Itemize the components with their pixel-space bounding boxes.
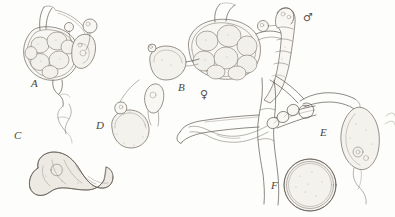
edge-fragment-right bbox=[385, 113, 395, 125]
figure-c-curved-body bbox=[29, 152, 113, 195]
panel-label-b: B bbox=[178, 81, 185, 93]
panel-label-e: E bbox=[320, 126, 327, 138]
small-cell-above-d bbox=[145, 84, 164, 126]
figure-e-motile-zoospore bbox=[341, 107, 379, 204]
panel-label-c: C bbox=[14, 129, 22, 141]
illustration-plate: A B C D E F ♀ ♂ bbox=[0, 0, 395, 217]
male-symbol: ♂ bbox=[303, 11, 313, 24]
female-symbol: ♀ bbox=[200, 88, 208, 101]
figure-f-resting-spore bbox=[284, 159, 336, 211]
figure-a-zoosporangium bbox=[24, 6, 97, 143]
figure-d-encysted-zoospore bbox=[112, 80, 149, 148]
antheridium-branch bbox=[264, 8, 295, 103]
panel-label-f: F bbox=[271, 179, 278, 191]
figure-drawing-layer bbox=[0, 0, 395, 217]
figure-b-oogonium bbox=[148, 3, 292, 80]
panel-label-a: A bbox=[31, 77, 38, 89]
panel-label-d: D bbox=[96, 119, 104, 131]
